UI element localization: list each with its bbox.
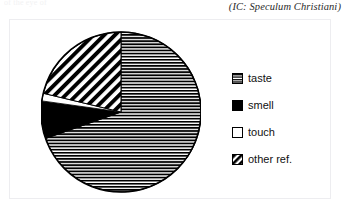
figure-caption: (IC: Speculum Christiani)	[229, 1, 341, 12]
legend-item-smell[interactable]: smell	[232, 95, 328, 116]
legend-item-other-ref[interactable]: other ref.	[232, 149, 328, 170]
legend-label-smell: smell	[248, 100, 274, 111]
caption-source-title: Speculum Christiani	[249, 1, 337, 12]
legend-label-touch: touch	[248, 127, 275, 138]
horizontal-stripe-swatch-icon	[232, 73, 243, 84]
legend-label-other-ref: other ref.	[248, 154, 292, 165]
plot-frame: taste smell touch other ref.	[9, 19, 331, 199]
legend-label-taste: taste	[248, 73, 272, 84]
chart-legend: taste smell touch other ref.	[232, 68, 328, 170]
pie-chart-svg	[41, 31, 201, 193]
legend-item-touch[interactable]: touch	[232, 122, 328, 143]
pie-chart	[41, 31, 201, 193]
diagonal-hatch-swatch-icon	[232, 154, 243, 165]
legend-item-taste[interactable]: taste	[232, 68, 328, 89]
caption-prefix: (IC:	[229, 1, 250, 12]
empty-white-swatch-icon	[232, 127, 243, 138]
caption-suffix: )	[337, 1, 341, 12]
clipped-header-text: of the eye of	[4, 0, 174, 7]
figure-root: of the eye of (IC: Speculum Christiani)	[0, 0, 347, 208]
solid-black-swatch-icon	[232, 100, 243, 111]
